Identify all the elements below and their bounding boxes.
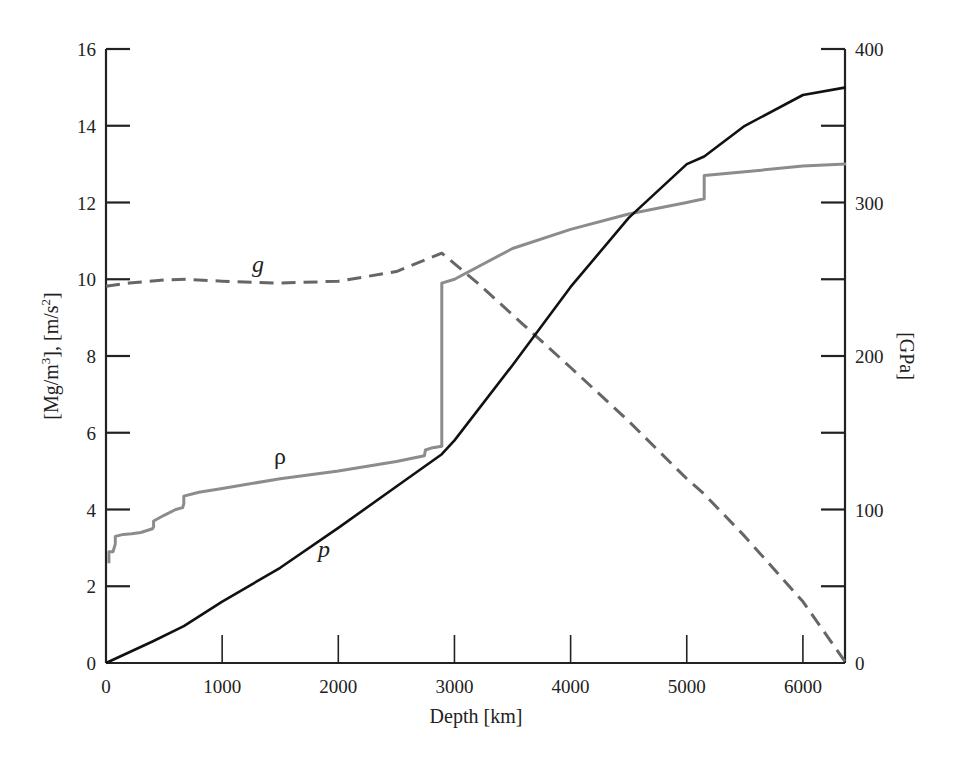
x-tick-label: 3000 bbox=[435, 676, 473, 697]
series bbox=[106, 87, 846, 663]
axes: 0246810121416010020030040001000200030004… bbox=[77, 39, 884, 697]
curve-label-rho: ρ bbox=[274, 443, 286, 469]
curve-label-g: g bbox=[252, 251, 264, 277]
series-gravity-g bbox=[106, 253, 846, 663]
x-tick-label: 2000 bbox=[319, 676, 357, 697]
x-tick-label: 6000 bbox=[784, 676, 822, 697]
x-tick-label: 4000 bbox=[552, 676, 590, 697]
y-right-tick-label: 400 bbox=[855, 39, 884, 60]
y-left-tick-label: 2 bbox=[87, 576, 97, 597]
curve-label-p: p bbox=[316, 536, 330, 562]
y-left-tick-label: 8 bbox=[87, 346, 97, 367]
x-tick-label: 5000 bbox=[668, 676, 706, 697]
y-left-axis-title: [Mg/m3], [m/s2] bbox=[38, 292, 63, 419]
y-left-tick-label: 10 bbox=[77, 269, 96, 290]
y-left-tick-label: 0 bbox=[87, 653, 97, 674]
series-density-rho bbox=[109, 164, 846, 563]
y-left-tick-label: 12 bbox=[77, 193, 96, 214]
y-left-tick-label: 16 bbox=[77, 39, 96, 60]
x-axis-title: Depth [km] bbox=[430, 705, 523, 728]
y-right-tick-label: 0 bbox=[855, 653, 865, 674]
y-right-tick-label: 300 bbox=[855, 193, 884, 214]
x-tick-label: 0 bbox=[101, 676, 111, 697]
y-left-tick-label: 14 bbox=[77, 116, 97, 137]
y-right-tick-label: 100 bbox=[855, 500, 884, 521]
y-right-axis-title: [GPa] bbox=[896, 332, 918, 380]
x-tick-label: 1000 bbox=[203, 676, 241, 697]
y-left-tick-label: 6 bbox=[87, 423, 97, 444]
y-right-tick-label: 200 bbox=[855, 346, 884, 367]
y-left-tick-label: 4 bbox=[87, 500, 97, 521]
chart-canvas: 0246810121416010020030040001000200030004… bbox=[0, 0, 954, 765]
